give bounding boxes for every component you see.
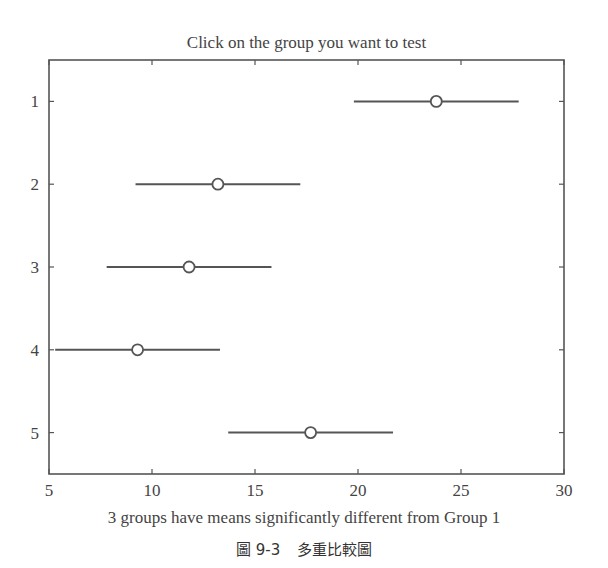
x-tick-label: 15 [247,481,264,500]
x-tick-label: 30 [556,481,573,500]
figure-title: 多重比較圖 [297,541,372,559]
group-interval-5[interactable] [228,427,393,438]
group-interval-2[interactable] [136,179,301,190]
x-tick-label: 5 [45,481,54,500]
plot-area[interactable]: 5101520253012345 [0,0,608,568]
mean-marker-icon[interactable] [212,179,223,190]
figure-caption: 圖 9-3 多重比較圖 [0,538,608,559]
y-tick-label: 1 [31,92,40,111]
group-interval-4[interactable] [55,344,220,355]
group-interval-1[interactable] [354,96,519,107]
mean-marker-icon[interactable] [431,96,442,107]
y-tick-label: 5 [31,424,40,443]
x-tick-label: 10 [144,481,161,500]
multiple-comparison-chart: Click on the group you want to test 5101… [0,0,608,568]
x-tick-label: 25 [453,481,470,500]
x-tick-label: 20 [350,481,367,500]
mean-marker-icon[interactable] [132,344,143,355]
y-tick-label: 4 [31,341,40,360]
y-tick-label: 2 [31,175,40,194]
group-interval-3[interactable] [107,262,272,273]
y-tick-label: 3 [31,258,40,277]
mean-marker-icon[interactable] [305,427,316,438]
mean-marker-icon[interactable] [184,262,195,273]
x-axis-label: 3 groups have means significantly differ… [0,508,608,528]
figure-label: 圖 9-3 [236,541,280,559]
